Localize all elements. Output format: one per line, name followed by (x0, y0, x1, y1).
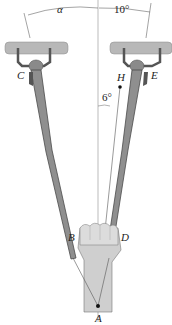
diagram-canvas (0, 0, 172, 325)
label-B: B (68, 232, 75, 243)
label-A: A (95, 313, 102, 324)
point-H (118, 85, 122, 89)
ten-degree-label: 10° (114, 4, 129, 15)
label-H: H (117, 72, 125, 83)
six-degree-arc (98, 105, 110, 106)
alpha-angle-leg (24, 13, 30, 38)
ten-degree-leg (146, 3, 151, 38)
point-A (96, 304, 100, 308)
label-D: D (121, 232, 129, 243)
alpha-label: α (57, 4, 63, 15)
left-rod-CB (29, 60, 76, 259)
label-E: E (151, 70, 158, 81)
label-C: C (17, 70, 24, 81)
six-degree-label: 6° (102, 92, 112, 103)
alpha-angle-arc (28, 7, 98, 15)
